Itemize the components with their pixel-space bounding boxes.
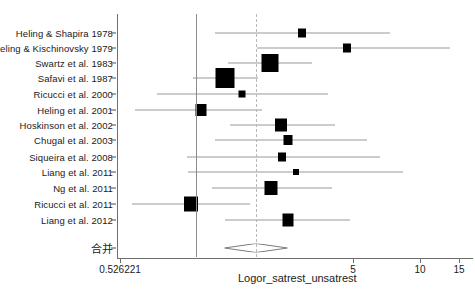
study-label: Safavi et al. 1987 xyxy=(38,73,113,84)
y-axis-tick xyxy=(111,110,116,111)
x-tick-label: 15 xyxy=(453,264,464,275)
forest-plot: Heling & Shapira 1978Heling & Kischinovs… xyxy=(0,0,475,290)
study-label: Ng et al. 2011 xyxy=(53,183,113,194)
x-tick-mark xyxy=(353,258,354,263)
effect-size-marker xyxy=(343,44,351,53)
confidence-interval-line xyxy=(257,48,450,49)
y-axis-tick xyxy=(111,188,116,189)
x-axis-title: Logor_satrest_unsatrest xyxy=(238,272,357,284)
pooled-effect-diamond xyxy=(225,244,288,253)
y-axis-tick xyxy=(111,33,116,34)
x-tick-label: 10 xyxy=(414,264,425,275)
y-axis-tick xyxy=(111,140,116,141)
effect-size-marker xyxy=(293,169,299,175)
y-axis-tick xyxy=(111,157,116,158)
pooled-line xyxy=(256,14,257,257)
effect-size-marker xyxy=(196,104,207,116)
y-axis-tick xyxy=(111,78,116,79)
effect-size-marker xyxy=(284,135,293,145)
study-label: Liang et al. 2011 xyxy=(42,167,113,178)
x-tick-mark xyxy=(459,258,460,263)
y-axis-tick xyxy=(111,248,116,249)
effect-size-marker xyxy=(265,181,278,195)
x-tick-mark xyxy=(420,258,421,263)
x-tick-label: 0.526221 xyxy=(99,264,141,275)
y-axis-tick xyxy=(111,172,116,173)
effect-size-marker xyxy=(278,153,286,162)
study-label: Chugal et al. 2003 xyxy=(34,135,113,146)
y-axis-tick xyxy=(111,63,116,64)
study-label: Swartz et al. 1983 xyxy=(35,58,113,69)
study-label: Heling et al. 2001 xyxy=(37,105,113,116)
pooled-summary-label: 合并 xyxy=(91,240,113,256)
y-axis-tick xyxy=(111,204,116,205)
effect-size-marker xyxy=(262,54,279,72)
y-axis-tick xyxy=(111,48,116,49)
y-axis xyxy=(117,14,118,258)
effect-size-marker xyxy=(275,119,287,132)
y-axis-tick xyxy=(111,220,116,221)
effect-size-marker xyxy=(239,91,246,98)
study-label: Siqueira et al. 2008 xyxy=(29,152,113,163)
study-label: Heling & Kischinovsky 1979 xyxy=(0,43,113,54)
y-axis-tick xyxy=(111,94,116,95)
effect-size-marker xyxy=(298,29,306,38)
study-label: Liang et al. 2012 xyxy=(41,215,113,226)
effect-size-marker xyxy=(216,68,235,88)
study-label: Ricucci et al. 2000 xyxy=(33,89,113,100)
study-label: Heling & Shapira 1978 xyxy=(16,28,113,39)
study-label: Hoskinson et al. 2002 xyxy=(20,120,113,131)
null-line xyxy=(196,14,197,257)
y-axis-tick xyxy=(111,125,116,126)
study-label: Ricucci et al. 2011 xyxy=(34,199,113,210)
x-tick-mark xyxy=(120,258,121,263)
effect-size-marker xyxy=(283,214,294,227)
